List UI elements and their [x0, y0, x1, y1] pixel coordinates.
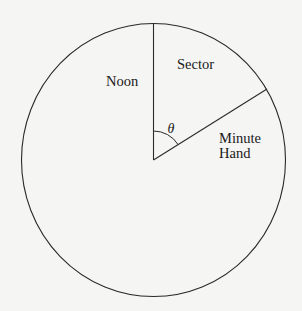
sector-label: Sector — [177, 56, 214, 72]
minute-hand-label-line2: Hand — [219, 145, 251, 161]
angle-theta-label: θ — [168, 121, 175, 136]
angle-arc — [154, 131, 179, 145]
clock-sector-diagram: θ Noon Sector Minute Hand — [0, 0, 302, 311]
minute-hand-label-line1: Minute — [219, 130, 261, 146]
noon-label: Noon — [106, 73, 139, 89]
diagram-canvas: θ Noon Sector Minute Hand — [0, 0, 302, 311]
